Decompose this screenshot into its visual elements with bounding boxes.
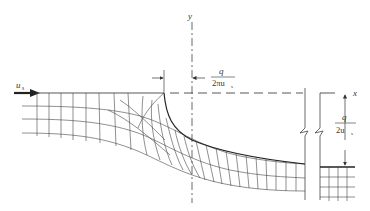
break-marks [300, 88, 323, 200]
y-axis-label: y [187, 11, 192, 21]
inflow-velocity-label: u s [16, 80, 24, 91]
svg-text:u: u [16, 80, 21, 90]
svg-text:s: s [351, 131, 353, 136]
svg-text:q: q [219, 66, 224, 76]
svg-text:s: s [231, 84, 233, 89]
offset-denominator: 2πu [212, 78, 226, 88]
x-axis-label: x [352, 88, 357, 98]
flow-net-diagram: u s x y q 2πu s [0, 0, 370, 211]
svg-text:q: q [342, 112, 347, 122]
svg-text:2πu: 2πu [212, 78, 226, 88]
downstream-jet [320, 167, 355, 201]
svg-text:2u: 2u [336, 125, 345, 135]
offset-dimension: q 2πu s [152, 66, 235, 89]
flow-net-mesh [22, 93, 305, 191]
jet-thickness-dimension: q 2u s [335, 95, 356, 165]
svg-text:s: s [22, 85, 24, 91]
